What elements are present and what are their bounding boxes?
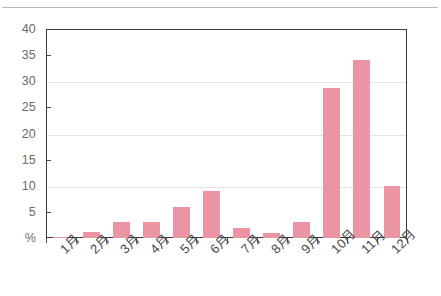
bar-slot bbox=[287, 29, 317, 238]
y-tick-label: 35 bbox=[22, 48, 36, 62]
page-top-rule bbox=[2, 7, 438, 8]
y-tick-label: 15 bbox=[22, 153, 36, 167]
bar-slot bbox=[76, 29, 106, 238]
y-tick-label: 30 bbox=[22, 74, 36, 88]
bar-slot bbox=[46, 29, 76, 238]
bar-slot bbox=[317, 29, 347, 238]
y-tick-mark bbox=[46, 212, 51, 213]
bar[interactable] bbox=[384, 186, 401, 238]
x-tick-mark bbox=[227, 238, 228, 243]
bar[interactable] bbox=[323, 88, 340, 238]
bars-layer bbox=[46, 29, 407, 238]
y-axis: 403530252015105% bbox=[0, 29, 42, 238]
y-tick-label: 25 bbox=[22, 100, 36, 114]
x-tick-mark bbox=[106, 238, 107, 243]
y-tick-label: 5 bbox=[29, 205, 36, 219]
y-tick-mark bbox=[46, 160, 51, 161]
x-tick-mark bbox=[407, 238, 408, 243]
x-tick-mark bbox=[46, 238, 47, 243]
bar-slot bbox=[196, 29, 226, 238]
y-tick-mark bbox=[46, 55, 51, 56]
x-tick-mark bbox=[347, 238, 348, 243]
bar-slot bbox=[136, 29, 166, 238]
y-tick-label: % bbox=[25, 231, 36, 245]
x-tick-mark bbox=[377, 238, 378, 243]
bar-chart-figure: 403530252015105% 1月2月3月4月5月6月7月8月9月10月11… bbox=[0, 0, 441, 296]
x-tick-mark bbox=[136, 238, 137, 243]
bar-slot bbox=[166, 29, 196, 238]
x-tick-mark bbox=[287, 238, 288, 243]
y-tick-label: 40 bbox=[22, 22, 36, 36]
x-tick-mark bbox=[317, 238, 318, 243]
y-tick-label: 10 bbox=[22, 179, 36, 193]
x-tick-mark bbox=[196, 238, 197, 243]
bar-slot bbox=[257, 29, 287, 238]
x-tick-mark bbox=[257, 238, 258, 243]
x-axis-labels: 1月2月3月4月5月6月7月8月9月10月11月12月 bbox=[0, 244, 441, 296]
y-tick-mark bbox=[46, 107, 51, 108]
bar-slot bbox=[227, 29, 257, 238]
bar-slot bbox=[106, 29, 136, 238]
bar[interactable] bbox=[353, 60, 370, 238]
x-tick-mark bbox=[76, 238, 77, 243]
bar-slot bbox=[347, 29, 377, 238]
bar-slot bbox=[377, 29, 407, 238]
x-tick-mark bbox=[166, 238, 167, 243]
y-tick-label: 20 bbox=[22, 127, 36, 141]
